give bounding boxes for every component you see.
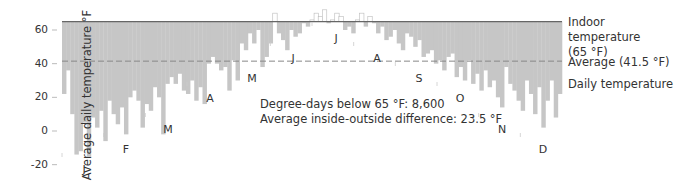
y-tick-label: 40 — [20, 57, 48, 69]
daily-temperature-bar — [488, 22, 492, 88]
daily-temperature-bar — [405, 22, 409, 34]
month-label: A — [206, 92, 214, 105]
daily-temperature-bar — [99, 22, 103, 111]
daily-temperature-bar — [368, 17, 372, 22]
daily-temperature-bar — [207, 22, 211, 64]
daily-temperature-bar — [314, 13, 318, 21]
legend-indoor: Indoor temperature (65 °F) — [568, 15, 680, 60]
daily-temperature-bar — [504, 22, 508, 67]
daily-temperature-bar — [95, 22, 99, 128]
daily-temperature-bar — [492, 22, 496, 81]
daily-temperature-bar — [512, 22, 516, 91]
daily-temperature-bar — [256, 22, 260, 30]
daily-temperature-bar — [124, 22, 128, 135]
daily-temperature-bar — [74, 22, 78, 155]
month-label: J — [291, 52, 294, 65]
daily-temperature-bar — [298, 22, 302, 34]
daily-temperature-bar — [525, 22, 529, 81]
daily-temperature-bar — [322, 10, 326, 22]
daily-temperature-bar — [264, 22, 268, 57]
daily-temperature-bar — [198, 22, 202, 88]
daily-temperature-bar — [343, 22, 347, 30]
month-label: O — [456, 92, 465, 105]
daily-temperature-bar — [393, 22, 397, 30]
y-tick-label: -20 — [20, 158, 48, 170]
month-label: F — [123, 143, 129, 156]
daily-temperature-bar — [409, 22, 413, 37]
daily-temperature-bar — [483, 22, 487, 71]
daily-temperature-bar — [467, 22, 471, 61]
daily-temperature-bar — [541, 22, 545, 128]
daily-temperature-bar — [161, 22, 165, 135]
daily-temperature-bar — [529, 22, 533, 94]
daily-temperature-bar — [223, 22, 227, 67]
y-tick-label: 60 — [20, 23, 48, 35]
daily-temperature-bar — [174, 22, 178, 84]
daily-temperature-bar — [401, 22, 405, 51]
daily-temperature-bar — [169, 22, 173, 78]
daily-temperature-bar — [430, 22, 434, 51]
daily-temperature-bar — [388, 22, 392, 37]
daily-temperature-bar — [103, 22, 107, 142]
daily-temperature-bar — [558, 22, 562, 94]
daily-temperature-bar — [227, 22, 231, 91]
daily-temperature-bar — [376, 22, 380, 34]
daily-temperature-bar — [236, 22, 240, 81]
daily-temperature-bar — [413, 22, 417, 47]
daily-temperature-bar — [351, 22, 355, 34]
daily-temperature-bar — [318, 17, 322, 22]
daily-temperature-bar — [141, 22, 145, 128]
daily-temperature-bar — [455, 22, 459, 78]
daily-temperature-bar — [438, 22, 442, 61]
daily-temperature-bar — [384, 22, 388, 41]
daily-temperature-bar — [248, 22, 252, 34]
daily-temperature-bar — [165, 22, 169, 84]
daily-temperature-bar — [446, 22, 450, 57]
daily-temperature-bar — [380, 22, 384, 27]
daily-temperature-bar — [347, 22, 351, 27]
daily-temperature-bar — [463, 22, 467, 81]
degree-days-text: Degree-days below 65 °F: 8,600 — [260, 97, 440, 112]
daily-temperature-bar — [475, 22, 479, 74]
daily-temperature-bar — [554, 22, 558, 118]
daily-temperature-bar — [293, 22, 297, 37]
y-axis-ticks — [52, 30, 57, 165]
daily-temperature-bar — [62, 22, 66, 94]
daily-temperature-bar — [500, 22, 504, 108]
daily-temperature-bar — [66, 22, 70, 71]
daily-temperature-bar — [496, 22, 500, 98]
daily-temperature-bar — [269, 22, 273, 44]
daily-temperature-bar — [70, 22, 74, 115]
daily-temperature-bar — [550, 22, 554, 81]
daily-temperature-bar — [231, 22, 235, 61]
daily-temperature-bar — [149, 22, 153, 111]
daily-temperature-bar — [219, 22, 223, 71]
daily-temperature-bar — [434, 22, 438, 64]
month-label: J — [334, 32, 337, 45]
y-tick-label: 0 — [20, 124, 48, 136]
daily-temperature-bar — [215, 22, 219, 64]
daily-temperature-bar — [244, 22, 248, 51]
daily-temperature-bar — [252, 22, 256, 44]
legend-daily: Daily temperature — [568, 77, 673, 92]
month-label: M — [163, 123, 173, 136]
daily-temperature-bar — [132, 22, 136, 91]
daily-temperature-bar — [537, 22, 541, 88]
daily-temperature-bar — [289, 22, 293, 30]
daily-temperature-bar — [533, 22, 537, 115]
daily-temperature-bar — [335, 13, 339, 21]
chart-annotation: Degree-days below 65 °F: 8,600 Average i… — [260, 97, 440, 127]
daily-temperature-bar — [306, 22, 310, 27]
daily-temperature-bar — [190, 22, 194, 81]
daily-temperature-bar — [281, 22, 285, 41]
month-label: A — [373, 52, 381, 65]
daily-temperature-bar — [285, 22, 289, 51]
legend-average: Average (41.5 °F) — [568, 55, 669, 70]
daily-temperature-bar — [508, 22, 512, 84]
month-label: M — [247, 72, 257, 85]
legend-indoor-label: Indoor temperature — [568, 15, 680, 45]
daily-temperature-bar — [153, 22, 157, 88]
daily-temperature-bar — [116, 22, 120, 125]
daily-temperature-bar — [339, 17, 343, 22]
daily-temperature-bar — [360, 13, 364, 21]
